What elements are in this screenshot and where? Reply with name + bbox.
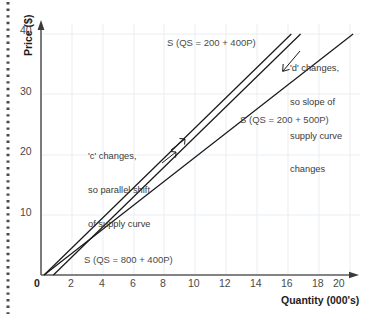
y-axis: [38, 20, 45, 275]
x-axis-title: Quantity (000's): [281, 294, 359, 306]
x-tick-2: 2: [68, 277, 74, 289]
x-tick-20: 20: [333, 277, 345, 289]
y-tick-10: 10: [20, 206, 32, 218]
annotation-c-line-1: 'c' changes,: [88, 151, 151, 162]
x-tick-12: 12: [219, 277, 231, 289]
chart-figure: Price ($) 40 30 20 10 0 2 4 6 8 10 12 14…: [0, 0, 367, 316]
y-tick-40: 40: [20, 24, 32, 36]
annotation-d-change: 'd' changes, so slope of supply curve ch…: [290, 41, 342, 198]
x-tick-10: 10: [188, 277, 200, 289]
x-tick-6: 6: [130, 277, 136, 289]
annotation-d-line-3: supply curve: [290, 131, 342, 142]
y-tick-0: 0: [34, 277, 40, 289]
x-tick-14: 14: [250, 277, 262, 289]
annotation-c-line-3: of supply curve: [88, 219, 151, 230]
annotation-c-change: 'c' changes, so parallel shift of supply…: [88, 129, 151, 252]
curve-label-800-400: S (QS = 800 + 400P): [84, 254, 173, 265]
x-tick-18: 18: [312, 277, 324, 289]
annotation-c-line-2: so parallel shift: [88, 185, 151, 196]
annotation-d-line-4: changes: [290, 164, 342, 175]
annotation-d-line-2: so slope of: [290, 97, 342, 108]
curve-label-200-400: S (QS = 200 + 400P): [167, 37, 256, 48]
x-tick-8: 8: [160, 277, 166, 289]
x-tick-4: 4: [99, 277, 105, 289]
y-tick-30: 30: [20, 85, 32, 97]
y-tick-20: 20: [20, 145, 32, 157]
annotation-d-line-1: 'd' changes,: [290, 63, 342, 74]
x-tick-16: 16: [281, 277, 293, 289]
